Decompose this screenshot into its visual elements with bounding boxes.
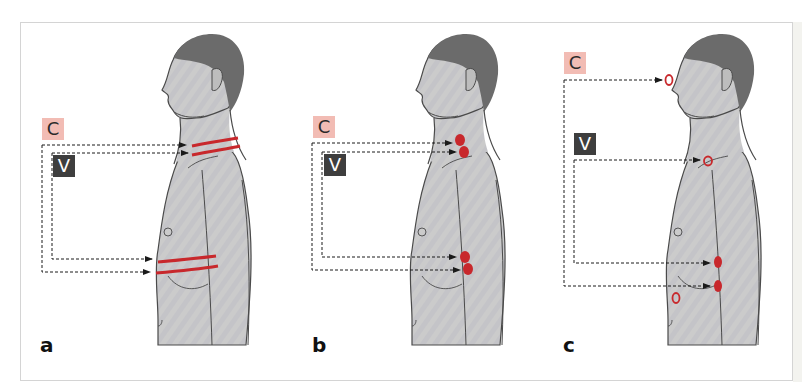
panel-b-figure <box>312 34 505 345</box>
panel-a-letter: a <box>40 333 54 357</box>
panel-a-v-label: V <box>53 155 75 177</box>
panel-c-letter: c <box>563 333 575 357</box>
panel-b-letter: b <box>312 333 326 357</box>
anatomy-figure <box>0 0 802 390</box>
panel-b-v-label: V <box>324 154 346 176</box>
panel-c-c-label: C <box>564 52 586 74</box>
panel-b-c-label: C <box>313 116 335 138</box>
panel-a-c-label: C <box>42 118 64 140</box>
panel-c-figure <box>564 34 761 345</box>
panel-c-v-label: V <box>574 133 596 155</box>
panel-a-figure <box>42 34 251 345</box>
